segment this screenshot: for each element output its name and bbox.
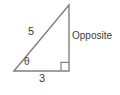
opposite-side-label: Opposite [72, 31, 112, 41]
hypotenuse-length-label: 5 [28, 26, 34, 37]
right-triangle-figure: 5 3 θ Opposite [0, 0, 120, 95]
triangle-outline [14, 5, 69, 71]
adjacent-length-label: 3 [39, 73, 45, 84]
angle-theta-label: θ [24, 57, 30, 67]
triangle-graphic [0, 0, 120, 95]
right-angle-marker-icon [61, 62, 69, 70]
